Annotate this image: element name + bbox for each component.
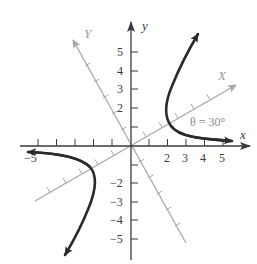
y-tick-label-3: 3	[117, 82, 123, 96]
y-axis	[131, 22, 138, 260]
y-tick-label-2: 2	[117, 101, 123, 115]
rotated-x-axis-label: X	[217, 68, 227, 83]
y-axis-label: y	[140, 18, 148, 33]
x-tick-label-4: 4	[200, 151, 206, 165]
y-tick-label-neg5: −5	[110, 232, 123, 246]
lower-left-branch	[29, 152, 95, 255]
y-tick-label-neg3: −3	[110, 195, 123, 209]
lower-left-branch-tail	[28, 152, 90, 167]
y-tick-label-5: 5	[117, 45, 123, 59]
y-tick-label-neg4: −4	[110, 213, 123, 227]
x-axis-label: x	[239, 127, 246, 142]
x-tick-label-neg5: −5	[24, 151, 37, 165]
rotated-hyperbola-diagram: y x Y X −5 2 3 4 5 5 4 3 2 −2 −3 −4 −5 θ…	[0, 0, 257, 264]
rotation-angle-label: θ = 30°	[190, 115, 226, 129]
x-tick-label-5: 5	[219, 151, 225, 165]
rotated-y-axis-label: Y	[84, 26, 93, 41]
x-tick-label-2: 2	[164, 151, 170, 165]
rotated-x-axis	[35, 85, 236, 201]
x-tick-label-3: 3	[182, 151, 188, 165]
y-tick-label-4: 4	[117, 64, 123, 78]
rotated-y-axis	[73, 40, 186, 243]
y-tick-label-neg2: −2	[110, 176, 123, 190]
